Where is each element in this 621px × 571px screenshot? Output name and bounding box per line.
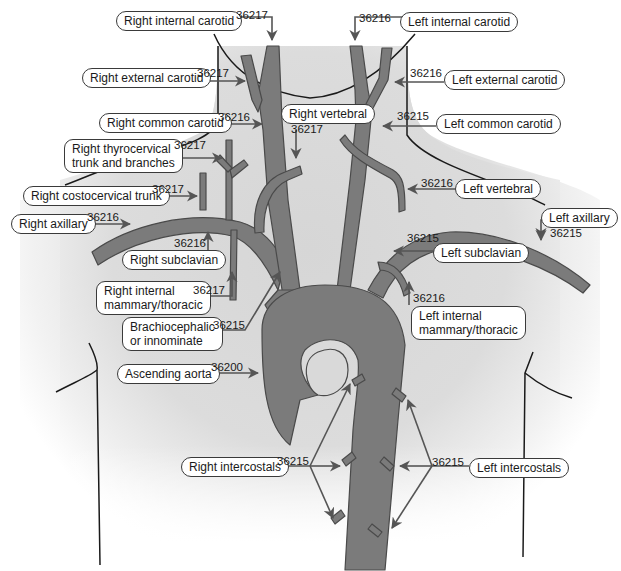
label-right-vertebral: Right vertebral (281, 104, 375, 124)
label-left-internal-carotid: Left internal carotid (400, 12, 518, 32)
code-left-internal-mammary: 36216 (413, 292, 445, 304)
code-right-vertebral: 36217 (291, 123, 323, 135)
label-left-axillary: Left axillary (541, 208, 618, 228)
code-right-axillary: 36216 (87, 211, 119, 223)
code-right-thyrocervical: 36217 (174, 139, 206, 151)
label-right-internal-carotid: Right internal carotid (116, 11, 242, 31)
code-left-external-carotid: 36216 (410, 67, 442, 79)
label-right-intercostals: Right intercostals (181, 457, 289, 477)
code-right-internal-carotid: 36217 (236, 9, 268, 21)
code-left-internal-carotid: 36216 (359, 12, 391, 24)
label-right-axillary: Right axillary (11, 214, 96, 234)
code-left-subclavian: 36215 (407, 232, 439, 244)
code-right-intercostals: 36215 (277, 455, 309, 467)
label-right-thyrocervical: Right thyrocervical trunk and branches (64, 139, 183, 173)
code-right-common-carotid: 36216 (218, 111, 250, 123)
label-ascending-aorta: Ascending aorta (117, 364, 220, 384)
code-right-internal-mammary: 36217 (193, 284, 225, 296)
label-left-external-carotid: Left external carotid (444, 70, 565, 90)
code-left-vertebral: 36216 (421, 177, 453, 189)
label-left-common-carotid: Left common carotid (436, 114, 561, 134)
label-left-vertebral: Left vertebral (455, 179, 541, 199)
code-ascending-aorta: 36200 (211, 361, 243, 373)
code-left-intercostals: 36215 (432, 456, 464, 468)
label-left-intercostals: Left intercostals (469, 458, 569, 478)
code-brachiocephalic: 36215 (213, 319, 245, 331)
label-right-external-carotid: Right external carotid (82, 68, 211, 88)
code-right-external-carotid: 36217 (197, 67, 229, 79)
code-left-common-carotid: 36215 (397, 110, 429, 122)
code-left-axillary: 36215 (550, 227, 582, 239)
aortic-arch-branches-diagram: Right internal carotid 36217 Right exter… (0, 0, 621, 571)
label-left-internal-mammary: Left internal mammary/thoracic (411, 306, 526, 340)
code-right-subclavian: 36216 (174, 237, 206, 249)
label-left-subclavian: Left subclavian (433, 243, 529, 263)
label-right-common-carotid: Right common carotid (99, 113, 232, 133)
code-right-costocervical: 36217 (152, 183, 184, 195)
label-brachiocephalic: Brachiocephalic or innominate (122, 317, 223, 351)
label-right-subclavian: Right subclavian (122, 250, 226, 270)
label-right-costocervical: Right costocervical trunk (23, 186, 170, 206)
